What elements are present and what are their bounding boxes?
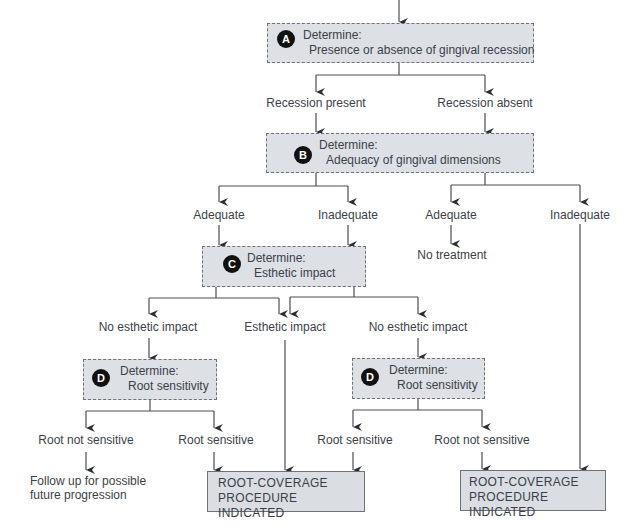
label-no-treatment: No treatment	[417, 248, 486, 262]
node-b-title: Determine:	[319, 138, 378, 152]
badge-d-left-icon: D	[92, 369, 110, 387]
label-no-esthetic-impact-2: No esthetic impact	[369, 320, 468, 334]
label-root-sensitive-2: Root sensitive	[317, 433, 392, 447]
badge-d-right-icon: D	[361, 368, 379, 386]
label-adequate-2: Adequate	[425, 208, 476, 222]
node-a-text: Presence or absence of gingival recessio…	[309, 43, 534, 57]
node-b-box: B Determine: Adequacy of gingival dimens…	[266, 133, 534, 173]
node-a-title: Determine:	[303, 28, 362, 42]
follow-up-line-2: future progression	[30, 488, 127, 503]
node-c-title: Determine:	[247, 251, 306, 265]
badge-a-icon: A	[277, 30, 295, 48]
label-adequate-1: Adequate	[193, 208, 244, 222]
label-root-not-sensitive-1: Root not sensitive	[38, 433, 133, 447]
outcome-left-line-2: PROCEDURE INDICATED	[218, 491, 364, 521]
label-esthetic-impact: Esthetic impact	[244, 320, 325, 334]
outcome-right-box: ROOT-COVERAGE PROCEDURE INDICATED	[460, 470, 606, 511]
outcome-left-line-1: ROOT-COVERAGE	[218, 476, 364, 491]
label-root-not-sensitive-2: Root not sensitive	[434, 433, 529, 447]
node-d-right-title: Determine:	[389, 363, 448, 377]
outcome-right-line-2: PROCEDURE INDICATED	[469, 490, 605, 520]
label-inadequate-1: Inadequate	[318, 208, 378, 222]
outcome-right-line-1: ROOT-COVERAGE	[469, 475, 605, 490]
node-d-left-text: Root sensitivity	[128, 379, 209, 393]
label-root-sensitive-1: Root sensitive	[178, 433, 253, 447]
follow-up-line-1: Follow up for possible	[30, 474, 146, 489]
node-a-box: A Determine: Presence or absence of ging…	[267, 23, 534, 63]
node-d-left-title: Determine:	[120, 364, 179, 378]
badge-b-icon: B	[294, 146, 312, 164]
label-inadequate-2: Inadequate	[550, 208, 610, 222]
label-recession-present: Recession present	[266, 96, 365, 110]
node-d-right-box: D Determine: Root sensitivity	[352, 358, 485, 399]
outcome-left-box: ROOT-COVERAGE PROCEDURE INDICATED	[207, 471, 365, 512]
node-d-left-box: D Determine: Root sensitivity	[83, 359, 217, 400]
badge-c-icon: C	[223, 255, 241, 273]
label-recession-absent: Recession absent	[437, 96, 532, 110]
flowchart-canvas: A Determine: Presence or absence of ging…	[0, 0, 638, 529]
label-no-esthetic-impact-1: No esthetic impact	[99, 320, 198, 334]
node-d-right-text: Root sensitivity	[397, 378, 478, 392]
node-c-box: C Determine: Esthetic impact	[202, 246, 366, 287]
node-c-text: Esthetic impact	[254, 266, 335, 280]
node-b-text: Adequacy of gingival dimensions	[326, 153, 501, 167]
